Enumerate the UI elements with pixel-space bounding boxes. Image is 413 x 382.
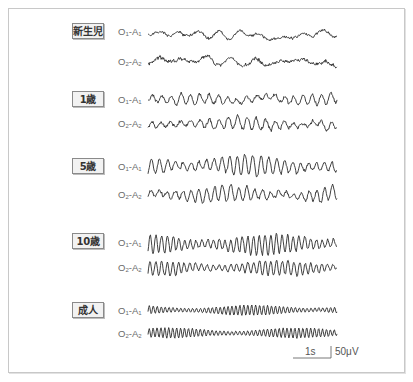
amplitude-scale-label: 50μV: [335, 346, 359, 357]
eeg-waveform: [148, 260, 337, 276]
eeg-waveform: [148, 305, 337, 315]
eeg-waveform: [148, 115, 337, 132]
time-scale-label: 1s: [305, 346, 316, 357]
eeg-waveform: [148, 55, 337, 68]
eeg-waveform: [148, 154, 337, 177]
eeg-waveform: [148, 29, 337, 41]
eeg-waveform: [148, 92, 337, 106]
eeg-waveform: [148, 233, 337, 255]
eeg-waveform: [148, 184, 337, 203]
eeg-waveform: [148, 328, 337, 339]
eeg-traces: [0, 0, 413, 382]
waveform-group: [148, 29, 337, 338]
